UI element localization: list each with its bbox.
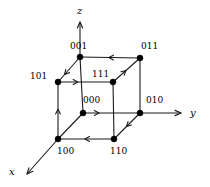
vertex-label-001: 001 <box>70 42 87 51</box>
x-axis-label: x <box>9 167 15 177</box>
edge-111-110-line <box>113 82 114 139</box>
edge-001-101-line <box>58 57 80 82</box>
vertex-label-000: 000 <box>83 96 100 105</box>
vertex-001 <box>77 54 83 60</box>
vertex-011 <box>137 55 143 61</box>
edge-000-100-diag-line <box>58 113 83 139</box>
vertex-label-011: 011 <box>141 42 158 51</box>
vertex-101 <box>55 79 61 85</box>
vertex-010 <box>137 110 143 116</box>
cube-diagram: 001011101111000010100110zyx <box>0 0 210 187</box>
vertex-label-111: 111 <box>92 70 109 79</box>
vertex-label-100: 100 <box>57 147 74 156</box>
vertex-label-010: 010 <box>146 96 163 105</box>
cube-svg-canvas <box>0 0 210 187</box>
z-axis-label: z <box>77 6 82 16</box>
vertex-label-101: 101 <box>30 72 47 81</box>
y-axis-label: y <box>190 108 196 118</box>
edge-111-011-line <box>113 58 140 82</box>
vertex-000 <box>80 110 86 116</box>
vertex-110 <box>111 136 117 142</box>
vertex-111 <box>110 79 116 85</box>
vertex-label-110: 110 <box>110 147 127 156</box>
vertex-100 <box>55 136 61 142</box>
x-axis-line <box>27 139 58 174</box>
